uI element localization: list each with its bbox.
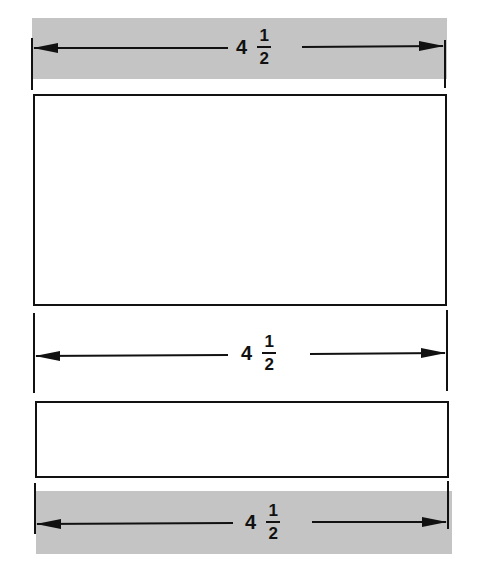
fraction-bar <box>266 521 280 523</box>
fraction-bar <box>262 352 276 354</box>
dimension-lines <box>0 0 478 575</box>
middle-dimension-label: 4 1 2 <box>241 333 276 373</box>
fraction: 1 2 <box>262 333 276 373</box>
fraction: 1 2 <box>257 27 271 67</box>
fraction: 1 2 <box>266 502 280 542</box>
denominator: 2 <box>264 356 273 373</box>
whole-number: 4 <box>241 342 252 365</box>
numerator: 1 <box>259 27 268 44</box>
bottom-dimension-label: 4 1 2 <box>245 502 280 542</box>
denominator: 2 <box>259 50 268 67</box>
top-dimension-label: 4 1 2 <box>236 27 271 67</box>
numerator: 1 <box>264 333 273 350</box>
whole-number: 4 <box>245 511 256 534</box>
fraction-bar <box>257 46 271 48</box>
whole-number: 4 <box>236 36 247 59</box>
numerator: 1 <box>268 502 277 519</box>
denominator: 2 <box>268 525 277 542</box>
